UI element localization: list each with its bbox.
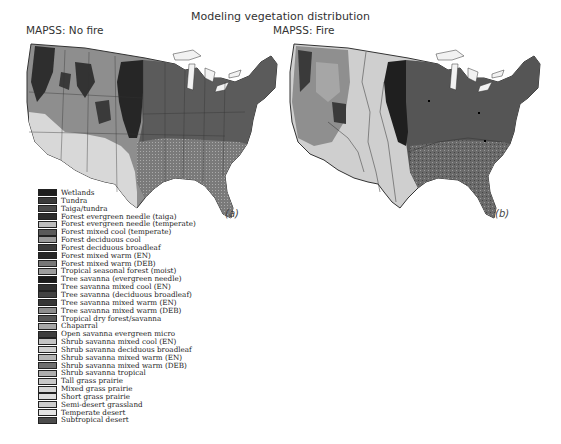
- legend-swatch: [38, 276, 57, 283]
- figure-title: Modeling vegetation distribution: [0, 10, 561, 23]
- legend-swatch: [38, 244, 57, 251]
- legend-swatch: [38, 331, 57, 338]
- legend-swatch: [38, 409, 57, 416]
- legend-swatch: [38, 252, 57, 259]
- legend-swatch: [38, 417, 57, 424]
- legend: WetlandsTundraTaiga/tundraForest evergre…: [38, 189, 196, 424]
- legend-swatch: [38, 378, 57, 385]
- legend-swatch: [38, 299, 57, 306]
- legend-swatch: [38, 205, 57, 212]
- legend-swatch: [38, 268, 57, 275]
- panel-b-tag: (b): [495, 208, 509, 219]
- panel-a-tag: (a): [225, 208, 239, 219]
- panel-b-label: MAPSS: Fire: [273, 24, 335, 36]
- legend-label: Subtropical desert: [61, 416, 129, 424]
- legend-swatch: [38, 338, 57, 345]
- legend-swatch: [38, 401, 57, 408]
- legend-swatch: [38, 315, 57, 322]
- legend-swatch: [38, 260, 57, 267]
- legend-swatch: [38, 362, 57, 369]
- legend-swatch: [38, 354, 57, 361]
- legend-swatch: [38, 284, 57, 291]
- legend-swatch: [38, 229, 57, 236]
- legend-swatch: [38, 307, 57, 314]
- legend-swatch: [38, 393, 57, 400]
- legend-swatch: [38, 291, 57, 298]
- legend-swatch: [38, 236, 57, 243]
- legend-swatch: [38, 346, 57, 353]
- legend-swatch: [38, 197, 57, 204]
- legend-swatch: [38, 221, 57, 228]
- legend-swatch: [38, 189, 57, 196]
- legend-swatch: [38, 323, 57, 330]
- legend-swatch: [38, 213, 57, 220]
- panel-a-label: MAPSS: No fire: [26, 24, 104, 36]
- legend-swatch: [38, 370, 57, 377]
- legend-item: Subtropical desert: [38, 416, 196, 424]
- legend-swatch: [38, 386, 57, 393]
- map-fire: [288, 42, 553, 232]
